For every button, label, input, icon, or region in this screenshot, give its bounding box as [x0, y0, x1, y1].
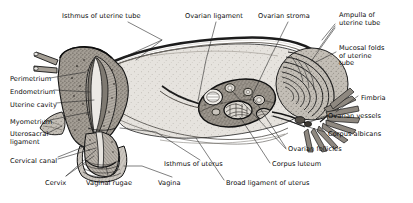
label-vagina: Vagina: [158, 180, 181, 188]
uterus-ovary-illustration: [0, 0, 413, 203]
label-endometrium: Endometrium: [10, 89, 55, 97]
label-broad-ligament-of-uterus: Broad ligament of uterus: [226, 180, 309, 188]
label-isthmus-of-uterus: Isthmus of uterus: [164, 161, 223, 169]
label-cervix: Cervix: [45, 180, 66, 188]
label-ovarian-stroma: Ovarian stroma: [258, 13, 310, 21]
anatomical-diagram: Isthmus of uterine tubeOvarian ligamentO…: [0, 0, 413, 203]
label-mucosal-folds-of-uterine-tube: Mucosal folds of uterine tube: [339, 45, 384, 68]
label-cervical-canal: Cervical canal: [10, 158, 57, 166]
label-corpus-albicans: Corpus albicans: [328, 131, 381, 139]
label-ovarian-vessels: Ovarian vessels: [328, 113, 381, 121]
label-ampulla-of-uterine-tube: Ampulla of uterine tube: [339, 12, 380, 27]
label-fimbria: Fimbria: [361, 95, 386, 103]
label-ovarian-follicles: Ovarian follicles: [288, 146, 342, 154]
label-myometrium: Myometrium: [10, 119, 52, 127]
label-uterine-cavity: Uterine cavity: [10, 102, 57, 110]
label-uterosacral-ligament: Uterosacral ligament: [10, 131, 48, 146]
label-isthmus-of-uterine-tube: Isthmus of uterine tube: [62, 13, 141, 21]
label-vaginal-rugae: Vaginal rugae: [86, 180, 132, 188]
label-ovarian-ligament: Ovarian ligament: [185, 13, 243, 21]
corpus-luteum: [224, 101, 252, 119]
label-corpus-luteum: Corpus luteum: [272, 161, 321, 169]
label-perimetrium: Perimetrium: [10, 76, 51, 84]
